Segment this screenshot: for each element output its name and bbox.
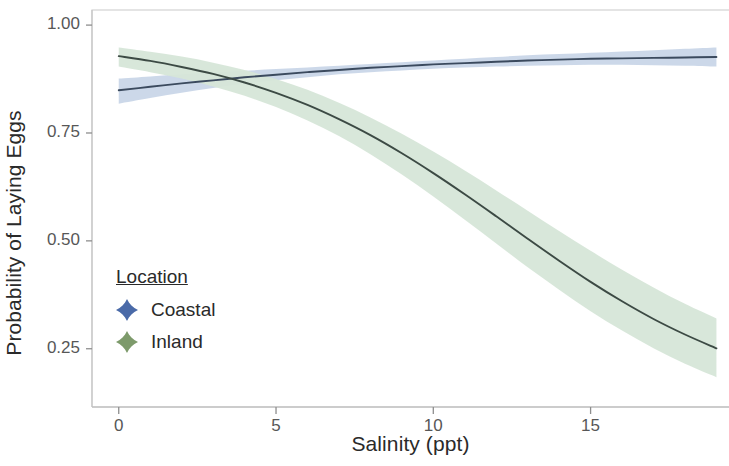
legend-item-inland[interactable]: Inland (112, 326, 262, 358)
x-axis-ticks (119, 407, 591, 414)
y-tick-label-0-75: 0.75 (20, 122, 80, 142)
plot-canvas (0, 0, 729, 466)
legend-label-coastal: Coastal (151, 299, 215, 321)
legend-item-coastal[interactable]: Coastal (112, 294, 262, 326)
legend-key-inland-diamond-marker (112, 327, 142, 357)
y-axis-ticks (86, 25, 92, 349)
y-tick-label-0-50: 0.50 (20, 230, 80, 250)
legend: Location Coastal Inland (112, 266, 262, 358)
y-tick-label-1-00: 1.00 (20, 14, 80, 34)
x-tick-label-5: 5 (246, 416, 306, 436)
x-tick-label-10: 10 (403, 416, 463, 436)
x-tick-label-0: 0 (89, 416, 149, 436)
x-tick-label-15: 15 (561, 416, 621, 436)
legend-key-coastal-diamond-marker (112, 295, 142, 325)
legend-label-inland: Inland (151, 331, 203, 353)
legend-title: Location (116, 266, 188, 288)
chart-figure: Probability of Laying Eggs Salinity (ppt… (0, 0, 729, 466)
y-tick-label-0-25: 0.25 (20, 338, 80, 358)
